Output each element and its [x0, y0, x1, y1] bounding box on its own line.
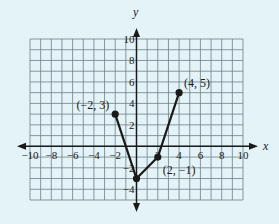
y-tick-label: 6 [129, 76, 135, 88]
y-tick-label: 8 [129, 54, 135, 66]
x-tick-label: −8 [45, 149, 57, 161]
y-tick-label: −4 [123, 183, 135, 195]
data-point [133, 175, 140, 182]
point-label: (2, −1) [163, 163, 196, 177]
y-tick-label: 10 [124, 33, 136, 45]
y-tick-label: 2 [129, 119, 135, 131]
point-label: (−2, 3) [76, 98, 109, 112]
x-tick-label: 10 [238, 149, 250, 161]
x-tick-label: 8 [219, 149, 225, 161]
coordinate-plane-chart: −10−8−6−4−2246810108642−2−4 (−2, 3)(2, −… [0, 0, 279, 224]
x-axis-label: x [262, 139, 269, 153]
point-label: (4, 5) [184, 76, 210, 90]
x-tick-label: 6 [198, 149, 204, 161]
x-tick-label: 4 [176, 149, 182, 161]
y-tick-label: 4 [129, 97, 135, 109]
x-tick-label: −4 [88, 149, 100, 161]
data-point [154, 153, 161, 160]
x-tick-label: −2 [109, 149, 121, 161]
x-tick-label: −6 [67, 149, 79, 161]
y-axis-label: y [132, 5, 139, 19]
data-point [176, 89, 183, 96]
x-tick-label: −10 [21, 149, 39, 161]
data-point [112, 111, 119, 118]
